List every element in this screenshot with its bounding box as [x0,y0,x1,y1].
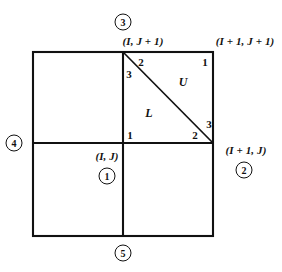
mesh-cell-diagram: (I, J + 1) (I + 1, J + 1) (I, J) (I + 1,… [0,0,282,272]
label-top-right-node: (I + 1, J + 1) [216,36,275,47]
circled-number-right: 2 [236,162,253,179]
vertex-number-lower-left: 1 [127,130,133,141]
label-center-node: (I, J) [95,151,118,162]
label-region-lower: L [145,107,152,119]
diagonal-split-line [123,52,213,143]
circled-number-center: 1 [99,168,116,185]
vertex-number-upper-apex: 2 [138,57,144,68]
label-top-left-node: (I, J + 1) [123,36,164,47]
vertex-number-lower-bottom-right: 2 [192,130,198,141]
vertex-number-upper-left: 3 [126,69,132,80]
vertex-number-lower-right: 3 [206,119,212,130]
label-region-upper: U [179,76,188,88]
circled-number-left: 4 [6,135,23,152]
label-right-node: (I + 1, J) [226,145,267,156]
circled-number-bottom: 5 [115,245,132,262]
vertex-number-upper-right: 1 [202,57,208,68]
circled-number-top: 3 [115,14,132,31]
